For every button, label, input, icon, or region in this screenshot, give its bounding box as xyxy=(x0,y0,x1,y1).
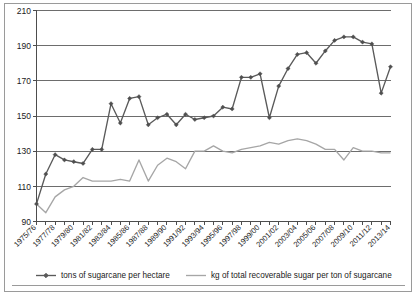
series-line-recoverable-sugar xyxy=(37,139,391,213)
y-axis-labels-group: 90110130150170190210 xyxy=(17,6,31,227)
data-point-marker xyxy=(44,172,48,176)
legend-label: tons of sugarcane per hectare xyxy=(61,271,170,280)
data-point-marker xyxy=(379,91,383,95)
y-axis-tick-label: 150 xyxy=(17,111,31,121)
data-point-marker xyxy=(137,95,141,99)
data-point-marker xyxy=(118,121,122,125)
data-point-marker xyxy=(128,96,132,100)
legend-label: kg of total recoverable sugar per ton of… xyxy=(211,271,392,280)
gridlines-group xyxy=(37,11,391,187)
x-axis-ticks-group xyxy=(37,222,391,226)
series-line-cane-per-hectare xyxy=(37,37,391,204)
y-axis-tick-label: 190 xyxy=(17,41,31,51)
y-axis-tick-label: 130 xyxy=(17,146,31,156)
data-point-marker xyxy=(230,107,234,111)
data-point-marker xyxy=(388,65,392,69)
series-markers-cane-per-hectare xyxy=(34,35,392,206)
y-axis-tick-label: 170 xyxy=(17,76,31,86)
chart-container: 90110130150170190210 1975/761977/781979/… xyxy=(0,0,417,297)
y-axis-ticks-group xyxy=(33,11,37,222)
chart-legend: tons of sugarcane per hectarekg of total… xyxy=(36,271,392,280)
x-axis-labels-group: 1975/761977/781979/801981/821983/841985/… xyxy=(12,223,392,249)
y-axis-tick-label: 210 xyxy=(17,6,31,16)
data-point-marker xyxy=(239,75,243,79)
data-point-marker xyxy=(109,102,113,106)
data-point-marker xyxy=(72,160,76,164)
y-axis-tick-label: 110 xyxy=(17,182,31,192)
data-point-marker xyxy=(342,35,346,39)
line-chart-svg: 90110130150170190210 1975/761977/781979/… xyxy=(0,0,417,297)
data-point-marker xyxy=(249,75,253,79)
legend-swatch-marker xyxy=(44,273,48,277)
data-point-marker xyxy=(258,72,262,76)
